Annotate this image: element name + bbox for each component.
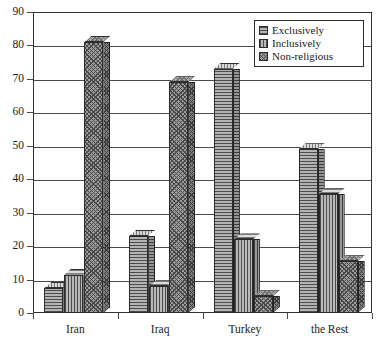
bar-turkey-exclusively (214, 69, 233, 313)
bar-turkey-inclusively (234, 239, 253, 313)
x-axis-separator (118, 313, 119, 319)
bar-front-face (299, 149, 318, 313)
legend-swatch-vertical-hatch (259, 39, 268, 48)
bar-iraq-exclusively (129, 236, 148, 313)
bar-side-face (273, 296, 280, 313)
legend-entry-exclusively: Exclusively (259, 24, 357, 37)
bar-iran-exclusively (44, 288, 63, 313)
y-axis: 0102030405060708090 (0, 0, 33, 344)
bar-side-face (358, 261, 365, 313)
y-axis-tick-label: 90 (13, 6, 25, 18)
bar-side-face (103, 42, 110, 313)
x-axis-label-turkey: Turkey (228, 323, 261, 336)
y-axis-tick-label: 30 (13, 207, 25, 219)
legend: ExclusivelyInclusivelyNon-religious (254, 20, 364, 67)
x-axis-label-the-rest: the Rest (311, 323, 348, 336)
x-axis-label-iraq: Iraq (151, 323, 170, 336)
x-axis-separator (203, 313, 204, 319)
bar-iraq-inclusively (149, 286, 168, 313)
bar-front-face (319, 194, 338, 313)
bar-front-face (64, 275, 83, 313)
bar-front-face (129, 236, 148, 313)
legend-label: Exclusively (272, 25, 324, 36)
bar-front-face (149, 286, 168, 313)
bar-front-face (84, 42, 103, 313)
x-axis-separator (372, 313, 373, 319)
y-axis-tick-label: 60 (13, 107, 25, 119)
bar-the-rest-exclusively (299, 149, 318, 313)
y-axis-tick-label: 70 (13, 73, 25, 85)
bar-turkey-non-religious (254, 296, 273, 313)
bar-iran-non-religious (84, 42, 103, 313)
legend-label: Inclusively (272, 38, 321, 49)
y-axis-tick-label: 50 (13, 140, 25, 152)
bar-front-face (234, 239, 253, 313)
y-axis-tick-label: 80 (13, 40, 25, 52)
legend-swatch-cross-hatch (259, 52, 268, 61)
y-axis-tick-label: 10 (13, 274, 25, 286)
bar-front-face (214, 69, 233, 313)
x-axis: IranIraqTurkeythe Rest (33, 313, 372, 344)
bar-iraq-non-religious (169, 82, 188, 313)
bar-the-rest-non-religious (339, 261, 358, 313)
bar-front-face (339, 261, 358, 313)
x-axis-separator (287, 313, 288, 319)
y-axis-tick-label: 40 (13, 173, 25, 185)
bar-the-rest-inclusively (319, 194, 338, 313)
bar-front-face (254, 296, 273, 313)
bar-iran-inclusively (64, 275, 83, 313)
bar-side-face (188, 82, 195, 313)
legend-entry-non-religious: Non-religious (259, 50, 357, 63)
bar-front-face (169, 82, 188, 313)
y-axis-tick-label: 0 (18, 307, 24, 319)
x-axis-separator (33, 313, 34, 319)
y-axis-tick-label: 20 (13, 240, 25, 252)
x-axis-label-iran: Iran (66, 323, 85, 336)
legend-label: Non-religious (272, 51, 333, 62)
bar-front-face (44, 288, 63, 313)
legend-swatch-horizontal-hatch (259, 26, 268, 35)
legend-entry-inclusively: Inclusively (259, 37, 357, 50)
bar-chart: 0102030405060708090 IranIraqTurkeythe Re… (0, 0, 385, 344)
